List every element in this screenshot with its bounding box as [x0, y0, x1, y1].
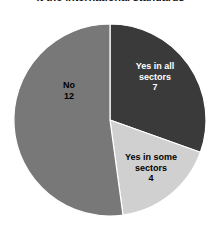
- pie-label-yes-in-some-sectors-value: 4: [110, 173, 192, 184]
- pie-label-no: No 12: [42, 80, 96, 101]
- pie-slice-no[interactable]: [14, 24, 123, 216]
- pie-label-yes-in-some-sectors: Yes in some sectors 4: [110, 152, 192, 184]
- pie-label-yes-in-all-sectors-value: 7: [121, 82, 189, 93]
- pie-label-yes-in-some-sectors-line2: sectors: [135, 163, 167, 173]
- pie-label-yes-in-all-sectors-line1: Yes in all: [136, 61, 175, 71]
- pie-label-yes-in-all-sectors: Yes in all sectors 7: [121, 61, 189, 93]
- pie-chart-svg: [0, 0, 221, 227]
- pie-label-no-value: 12: [42, 91, 96, 102]
- pie-chart-canvas: Yes in all sectors 7 Yes in some sectors…: [0, 0, 221, 227]
- pie-label-no-line1: No: [63, 80, 75, 90]
- pie-label-yes-in-all-sectors-line2: sectors: [139, 72, 171, 82]
- pie-chart-figure: it the international standards Yes in al…: [0, 0, 221, 227]
- pie-label-yes-in-some-sectors-line1: Yes in some: [125, 152, 177, 162]
